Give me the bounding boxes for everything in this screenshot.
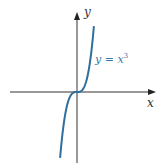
y-axis-label: y <box>84 5 91 19</box>
x-axis-arrow-icon <box>148 89 156 95</box>
x-axis-label: x <box>147 96 154 110</box>
y-axis-arrow-icon <box>74 12 80 20</box>
curve-label: y = x3 <box>95 52 128 66</box>
curve-label-exponent: 3 <box>124 52 128 60</box>
curve-label-text: y = x <box>95 53 124 66</box>
cubic-plot <box>0 0 163 168</box>
